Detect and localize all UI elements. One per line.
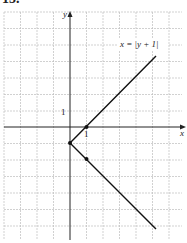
point-1-neg2 <box>85 157 89 161</box>
vertex-point <box>68 141 72 145</box>
x-tick-label: 1 <box>84 129 89 139</box>
y-tick-label: 1 <box>61 107 66 117</box>
graph-line <box>70 56 156 229</box>
x-axis-label: x <box>179 128 184 138</box>
y-axis-label: y <box>62 9 67 19</box>
equation-label: x = |y + 1| <box>119 39 159 49</box>
graph: x y 1 1 x = |y + 1| <box>0 0 187 243</box>
point-1-0 <box>85 125 89 129</box>
